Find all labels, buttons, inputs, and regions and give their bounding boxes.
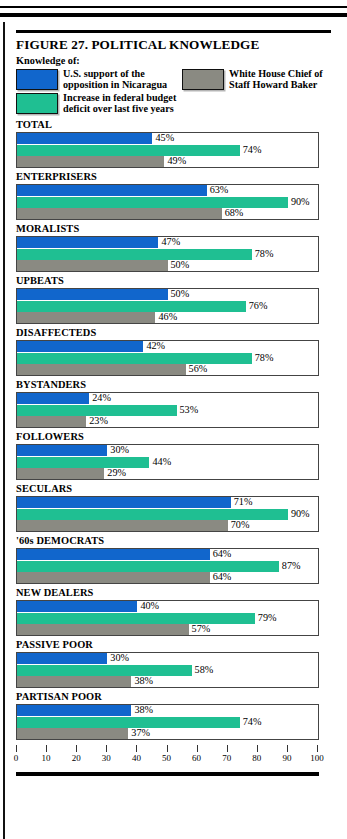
bar-value-label: 53% (177, 404, 199, 416)
axis-tick (257, 745, 258, 752)
bar-group-panel: 63%90%68% (16, 184, 319, 220)
axis-tick-label: 40 (132, 753, 141, 763)
axis-tick-label: 0 (14, 753, 19, 763)
bar-group-label: FOLLOWERS (16, 431, 333, 444)
legend-item-baker: White House Chief of Staff Howard Baker (182, 69, 323, 90)
bar-row: 68% (17, 208, 318, 219)
legend-heading: Knowledge of: (16, 55, 333, 67)
legend-label-nicaragua-line2: opposition in Nicaragua (63, 80, 167, 91)
legend-item-deficit: Increase in federal budget deficit over … (16, 93, 182, 114)
bar-row: 71% (17, 497, 318, 508)
bar (17, 717, 240, 728)
bar-row: 38% (17, 705, 318, 716)
bar-row: 29% (17, 468, 318, 479)
bar-row: 64% (17, 572, 318, 583)
bar-row: 74% (17, 717, 318, 728)
bar-row: 78% (17, 353, 318, 364)
page-left-rule (3, 22, 5, 839)
legend: Knowledge of: U.S. support of the opposi… (16, 55, 333, 114)
bar-group-panel: 38%74%37% (16, 704, 319, 740)
bar-group-panel: 24%53%23% (16, 392, 319, 428)
bar-value-label: 29% (104, 467, 126, 479)
bar-group: DISAFFECTEDS42%78%56% (16, 327, 333, 376)
axis-tick-label: 30 (102, 753, 111, 763)
legend-label-baker-line2: Staff Howard Baker (229, 80, 323, 91)
bar-value-label: 64% (210, 571, 232, 583)
bar-row: 24% (17, 393, 318, 404)
bar-value-label: 74% (240, 716, 262, 728)
bar-value-label: 71% (231, 496, 253, 508)
axis-tick-label: 90 (282, 753, 291, 763)
bar (17, 445, 107, 456)
bar-group-label: TOTAL (16, 119, 333, 132)
bar-row: 78% (17, 249, 318, 260)
axis-tick-label: 70 (222, 753, 231, 763)
legend-label-baker-line1: White House Chief of (229, 69, 323, 80)
bar-value-label: 79% (255, 612, 277, 624)
bar-row: 58% (17, 665, 318, 676)
axis-tick (16, 745, 17, 752)
bar-group: TOTAL45%74%49% (16, 119, 333, 168)
bar-group-label: NEW DEALERS (16, 587, 333, 600)
axis-tick (227, 745, 228, 752)
axis-tick (76, 745, 77, 752)
legend-row-1: U.S. support of the opposition in Nicara… (16, 69, 333, 90)
bar-row: 49% (17, 156, 318, 167)
bar-value-label: 47% (158, 236, 180, 248)
bar-value-label: 42% (143, 340, 165, 352)
bar-row: 87% (17, 561, 318, 572)
bar (17, 705, 131, 716)
bar (17, 393, 89, 404)
bar-row: 79% (17, 613, 318, 624)
bar-row: 90% (17, 197, 318, 208)
bar (17, 561, 279, 572)
bar (17, 289, 168, 300)
bar-row: 56% (17, 364, 318, 375)
bar-value-label: 38% (131, 675, 153, 687)
bar (17, 249, 252, 260)
axis-tick (287, 745, 288, 752)
bar-row: 47% (17, 237, 318, 248)
bar-group-panel: 64%87%64% (16, 548, 319, 584)
bar-groups: TOTAL45%74%49%ENTERPRISERS63%90%68%MORAL… (16, 119, 333, 740)
bar-row: 76% (17, 301, 318, 312)
bar-group-panel: 30%44%29% (16, 444, 319, 480)
bar-value-label: 56% (186, 363, 208, 375)
bar-value-label: 78% (252, 352, 274, 364)
bar (17, 665, 192, 676)
bar-group-label: PARTISAN POOR (16, 691, 333, 704)
bar-row: 50% (17, 260, 318, 271)
bar-row: 50% (17, 289, 318, 300)
bar-value-label: 24% (89, 392, 111, 404)
bar-row: 46% (17, 312, 318, 323)
bar-value-label: 76% (246, 300, 268, 312)
bar (17, 653, 107, 664)
bar-value-label: 90% (288, 508, 310, 520)
figure-container: FIGURE 27. POLITICAL KNOWLEDGE Knowledge… (16, 30, 333, 776)
bar-group-label: UPBEATS (16, 275, 333, 288)
bar-group: SECULARS71%90%70% (16, 483, 333, 532)
axis-tick (167, 745, 168, 752)
bar-row: 38% (17, 676, 318, 687)
bar (17, 457, 149, 468)
axis-tick-label: 10 (42, 753, 51, 763)
gray-swatch-icon (182, 69, 224, 90)
bar-group: BYSTANDERS24%53%23% (16, 379, 333, 428)
bar-group-label: PASSIVE POOR (16, 639, 333, 652)
axis-tick-label: 80 (252, 753, 261, 763)
bar-row: 42% (17, 341, 318, 352)
green-swatch-icon (16, 93, 58, 114)
bar-group-panel: 47%78%50% (16, 236, 319, 272)
bar-group-panel: 40%79%57% (16, 600, 319, 636)
bar (17, 572, 210, 583)
bottom-rule (16, 772, 319, 776)
bar-row: 90% (17, 509, 318, 520)
legend-label-deficit: Increase in federal budget deficit over … (63, 93, 176, 114)
bar-row: 45% (17, 133, 318, 144)
axis-tick (46, 745, 47, 752)
bar (17, 497, 231, 508)
bar-value-label: 30% (107, 444, 129, 456)
bar-value-label: 63% (207, 184, 229, 196)
bar (17, 405, 177, 416)
figure-title: FIGURE 27. POLITICAL KNOWLEDGE (16, 37, 333, 52)
